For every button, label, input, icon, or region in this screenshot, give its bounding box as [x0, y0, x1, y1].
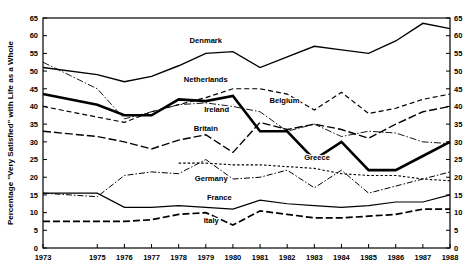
series-line-denmark	[43, 23, 450, 81]
y-tick-label-left: 60	[30, 31, 38, 40]
y-tick-label-left: 5	[34, 226, 38, 235]
x-tick-label: 1979	[197, 253, 214, 262]
y-tick-label-right: 50	[454, 67, 462, 76]
y-tick-label-left: 30	[30, 138, 38, 147]
x-tick-label: 1978	[170, 253, 187, 262]
series-label-germany: Germany	[195, 174, 229, 183]
x-tick-label: 1982	[279, 253, 296, 262]
y-tick-label-left: 55	[30, 49, 38, 58]
x-tick-label: 1984	[333, 253, 351, 262]
series-line-italy	[43, 209, 450, 225]
series-label-italy: Italy	[204, 216, 220, 225]
series-label-ireland: Ireland	[204, 105, 229, 114]
x-tick-label: 1973	[35, 253, 52, 262]
y-tick-label-left: 15	[30, 191, 38, 200]
chart-container: 6565606055555050454540403535303025252020…	[0, 0, 474, 274]
y-tick-label-right: 5	[454, 226, 458, 235]
y-tick-label-right: 55	[454, 49, 462, 58]
x-tick-label: 1976	[116, 253, 133, 262]
y-tick-label-right: 35	[454, 120, 462, 129]
x-tick-label: 1987	[415, 253, 432, 262]
y-tick-label-left: 65	[30, 14, 38, 23]
line-chart: 6565606055555050454540403535303025252020…	[0, 0, 474, 274]
series-label-belgium: Belgium	[270, 96, 300, 105]
y-tick-label-left: 10	[30, 208, 38, 217]
y-tick-label-left: 45	[30, 85, 38, 94]
series-label-france: France	[207, 193, 232, 202]
y-axis-title: Percentage "Very Satisfied" with Life as…	[6, 40, 15, 225]
y-tick-label-right: 30	[454, 138, 462, 147]
y-tick-label-right: 20	[454, 173, 462, 182]
y-tick-label-left: 20	[30, 173, 38, 182]
x-tick-label: 1983	[306, 253, 323, 262]
series-line-netherlands	[43, 89, 450, 123]
series-layer	[43, 23, 450, 225]
y-tick-label-left: 35	[30, 120, 38, 129]
series-label-britain: Britain	[194, 124, 218, 133]
y-tick-label-right: 10	[454, 208, 462, 217]
axis-layer: 6565606055555050454540403535303025252020…	[30, 14, 463, 262]
y-tick-label-left: 0	[34, 244, 38, 253]
axis-title-layer: Percentage "Very Satisfied" with Life as…	[6, 40, 15, 225]
y-tick-label-left: 40	[30, 102, 38, 111]
y-tick-label-right: 65	[454, 14, 462, 23]
x-tick-label: 1988	[442, 253, 459, 262]
series-line-france	[43, 193, 450, 209]
series-line-ireland	[43, 62, 450, 143]
x-tick-label: 1986	[387, 253, 404, 262]
series-label-denmark: Denmark	[190, 36, 223, 45]
x-tick-label: 1981	[252, 253, 269, 262]
y-tick-label-right: 25	[454, 155, 462, 164]
series-label-greece: Greece	[304, 153, 330, 162]
series-label-layer: DenmarkDenmarkNetherlandsNetherlandsIrel…	[184, 36, 330, 225]
x-tick-label: 1977	[143, 253, 160, 262]
y-tick-label-left: 50	[30, 67, 38, 76]
y-tick-label-right: 15	[454, 191, 462, 200]
y-tick-label-right: 45	[454, 85, 462, 94]
x-tick-label: 1985	[360, 253, 377, 262]
y-tick-label-right: 40	[454, 102, 462, 111]
y-tick-label-right: 0	[454, 244, 458, 253]
x-tick-label: 1980	[225, 253, 242, 262]
x-tick-label: 1975	[89, 253, 106, 262]
y-tick-label-right: 60	[454, 31, 462, 40]
series-label-netherlands: Netherlands	[184, 75, 228, 84]
y-tick-label-left: 25	[30, 155, 38, 164]
